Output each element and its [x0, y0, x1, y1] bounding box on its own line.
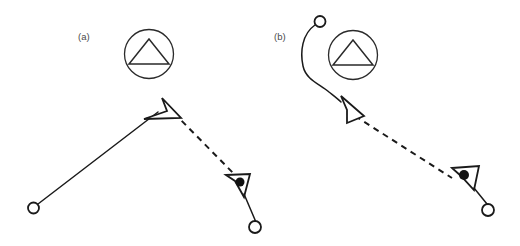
panel-a-goal-link [244, 194, 256, 221]
panel-a-target-marker [226, 174, 250, 197]
figure-container: (a) (b) [0, 0, 520, 246]
panel-b-goal-link [474, 188, 487, 204]
panel-a-start-node-icon [28, 203, 39, 214]
panel-b-start-node-icon [315, 16, 326, 27]
panel-a-label: (a) [78, 31, 90, 42]
panel-a-goal-node-icon [249, 221, 261, 233]
panel-a-obstacle-marker [125, 30, 174, 79]
panel-a-waypoint-arrow-icon [144, 98, 181, 119]
panel-b-dashed-path [355, 116, 452, 178]
panel-b-waypoint-arrow-icon [341, 96, 364, 123]
panel-b-target-marker [452, 166, 479, 190]
panel-b: (b) [274, 16, 494, 216]
panel-a-dashed-path [174, 113, 237, 177]
panel-a: (a) [28, 30, 261, 234]
panel-b-goal-node-icon [482, 204, 494, 216]
panel-b-target-dot-icon [459, 170, 469, 180]
panel-b-label: (b) [274, 31, 286, 42]
panel-a-solid-path [38, 112, 158, 204]
panel-b-obstacle-marker [329, 31, 378, 80]
panel-a-target-dot-icon [236, 178, 245, 187]
diagram-canvas: (a) (b) [0, 0, 520, 246]
